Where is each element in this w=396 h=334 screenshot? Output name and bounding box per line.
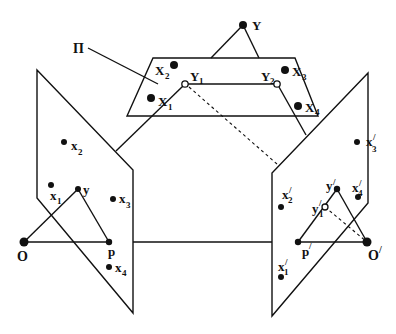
- label-x2-prime-sub: 2: [288, 195, 293, 205]
- y-ray-left: [211, 25, 243, 58]
- label-x1-prime-sub: 1: [284, 267, 289, 277]
- label-X1-sub: 1: [168, 102, 173, 112]
- epipolar-diagram: Π Y X 2 X 1 Y 1 Y 2 X 3 X 4 x 2 x 1 y x …: [0, 0, 396, 334]
- label-X4: X: [305, 100, 315, 115]
- point-p-prime: [295, 239, 301, 245]
- point-Y2: [274, 81, 280, 87]
- label-x3-prime-sub: 3: [372, 144, 377, 154]
- label-O: O: [17, 249, 28, 264]
- point-O: [20, 238, 29, 247]
- label-X3: X: [292, 64, 302, 79]
- label-y: y: [83, 182, 90, 197]
- point-X2: [170, 61, 178, 69]
- label-y-prime: y: [326, 178, 333, 193]
- point-Y: [239, 21, 247, 29]
- label-p-prime-mark: /: [308, 241, 312, 251]
- label-x1-prime-mark: /: [284, 257, 288, 267]
- label-x3-sub: 3: [126, 200, 131, 210]
- label-Y: Y: [252, 18, 262, 33]
- label-x3-prime-mark: /: [372, 132, 376, 142]
- label-X2: X: [155, 63, 165, 78]
- label-Y2-sub: 2: [270, 76, 275, 86]
- point-X3: [281, 66, 289, 74]
- label-X2-sub: 2: [165, 71, 170, 81]
- ray-y2-right: [279, 87, 306, 135]
- label-x3: x: [119, 191, 126, 206]
- label-pi: Π: [73, 41, 84, 56]
- point-O-prime: [363, 238, 372, 247]
- point-x2-prime: [278, 204, 284, 210]
- label-x4: x: [115, 260, 122, 275]
- label-O-prime: O: [368, 248, 379, 263]
- point-Y1: [182, 81, 188, 87]
- label-X1: X: [158, 94, 168, 109]
- label-x4-sub: 4: [122, 268, 127, 278]
- label-Y1-sub: 1: [199, 76, 204, 86]
- dashed-y1-right: [189, 87, 277, 164]
- label-p: p: [108, 244, 115, 259]
- pi-pointer-line: [88, 48, 158, 84]
- point-y: [75, 186, 81, 192]
- point-x3: [110, 196, 116, 202]
- point-x2: [61, 139, 67, 145]
- label-y1-prime-sub: 1: [319, 209, 324, 219]
- point-x4: [106, 264, 112, 270]
- point-X1: [147, 94, 155, 102]
- label-y1-prime: y: [312, 201, 319, 216]
- label-X4-sub: 4: [315, 107, 320, 117]
- label-x1: x: [50, 188, 57, 203]
- label-x1-sub: 1: [57, 196, 62, 206]
- label-y1-prime-mark: /: [318, 198, 322, 208]
- label-x4-prime-mark: /: [358, 178, 362, 188]
- label-O-prime-mark: /: [378, 244, 382, 255]
- label-y-prime-mark: /: [332, 177, 336, 187]
- label-x2: x: [71, 138, 78, 153]
- label-x2-prime-mark: /: [288, 185, 292, 195]
- point-x3-prime: [354, 139, 360, 145]
- label-x4-prime-sub: 4: [358, 188, 363, 198]
- point-X4: [294, 102, 302, 110]
- label-x2-sub: 2: [78, 147, 83, 157]
- label-X3-sub: 3: [302, 72, 307, 82]
